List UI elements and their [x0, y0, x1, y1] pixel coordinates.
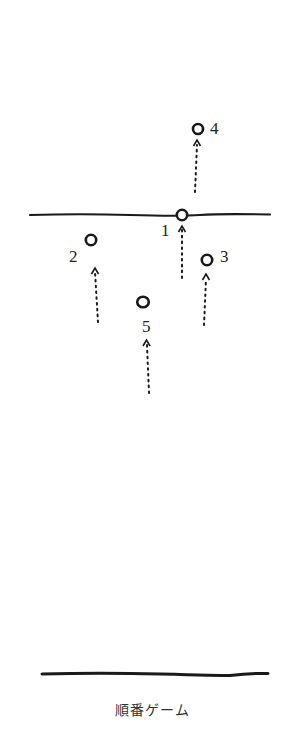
diagram-canvas — [0, 0, 305, 730]
player-circle — [177, 210, 187, 220]
player-5 — [137, 297, 150, 393]
player-label-2: 2 — [69, 248, 78, 265]
figure-caption: 順番ゲーム — [0, 699, 305, 719]
player-label-3: 3 — [220, 248, 229, 265]
player-circle — [137, 297, 149, 307]
dotted-arrow-shaft — [195, 145, 197, 192]
player-3 — [202, 255, 212, 325]
dotted-arrow-shaft — [95, 272, 98, 322]
top-line — [30, 214, 270, 216]
player-label-4: 4 — [210, 120, 219, 137]
player-1 — [177, 210, 187, 278]
player-circle — [202, 255, 212, 265]
dotted-arrow-shaft — [204, 279, 206, 325]
player-circle — [86, 235, 96, 245]
player-label-5: 5 — [142, 318, 151, 335]
player-circle — [193, 124, 203, 134]
dotted-arrow-shaft — [147, 345, 149, 393]
arrowhead-icon — [203, 274, 210, 280]
player-label-1: 1 — [161, 222, 170, 239]
player-2 — [86, 235, 99, 322]
player-4 — [193, 124, 203, 192]
bottom-line — [42, 673, 268, 675]
